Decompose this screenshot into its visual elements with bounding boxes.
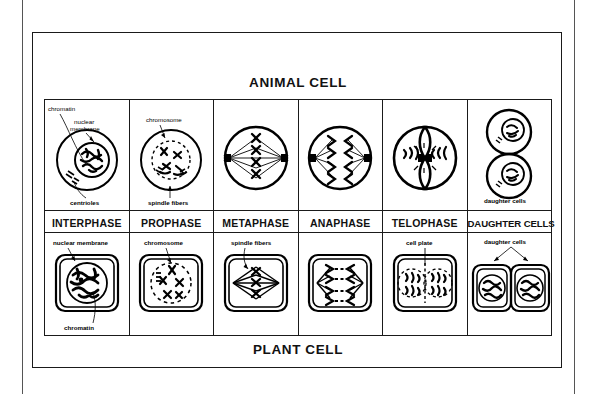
phase-cell-daughter-cells[interactable]: DAUGHTER CELLS <box>467 211 552 233</box>
plant-daughter-cells-diagram: daughter cells <box>468 235 554 333</box>
animal-interphase-diagram: chromatin nuclear membrane centrioles <box>46 102 128 208</box>
animal-daughter-cells: daughter cells <box>467 100 552 211</box>
callout-chromatin: chromatin <box>48 105 76 112</box>
callout-spindle-fibers: spindle fibers <box>231 239 272 246</box>
plant-telophase-cell: cell plate <box>383 233 468 336</box>
animal-telophase-cell <box>383 100 468 211</box>
plant-metaphase-cell: spindle fibers <box>214 233 299 336</box>
animal-prophase-diagram: chromosome spindle fibers <box>130 102 212 208</box>
animal-daughter-cells-diagram: daughter cells <box>468 102 550 208</box>
phase-cell-telophase[interactable]: TELOPHASE <box>383 211 468 233</box>
phase-label-row: INTERPHASE PROPHASE METAPHASE ANAPHASE T… <box>45 211 552 233</box>
callout-centrioles: centrioles <box>70 199 100 206</box>
animal-cell-row: chromatin nuclear membrane centrioles <box>45 100 552 211</box>
callout-nuclear-membrane-l1: nuclear <box>74 118 94 125</box>
plant-anaphase-diagram <box>299 235 381 333</box>
callout-nuclear-membrane: nuclear membrane <box>53 239 109 246</box>
phase-label-metaphase: METAPHASE <box>222 217 289 229</box>
animal-prophase-cell: chromosome spindle fibers <box>129 100 214 211</box>
animal-metaphase-cell <box>214 100 299 211</box>
phase-cell-metaphase[interactable]: METAPHASE <box>214 211 299 233</box>
callout-chromosome: chromosome <box>146 116 182 123</box>
animal-telophase-diagram <box>384 102 466 208</box>
phase-cell-anaphase[interactable]: ANAPHASE <box>298 211 383 233</box>
animal-metaphase-diagram <box>215 102 297 208</box>
plant-anaphase-cell <box>298 233 383 336</box>
animal-anaphase-diagram <box>299 102 381 208</box>
callout-chromatin: chromatin <box>64 324 94 331</box>
callout-daughter-cells: daughter cells <box>484 197 527 204</box>
plant-daughter-cells: daughter cells <box>467 233 552 336</box>
callout-cell-plate: cell plate <box>406 239 433 246</box>
plant-interphase-diagram: nuclear membrane chromatin <box>46 235 128 333</box>
phase-cell-prophase[interactable]: PROPHASE <box>129 211 214 233</box>
phase-label-interphase: INTERPHASE <box>52 217 122 229</box>
callout-daughter-cells: daughter cells <box>484 238 527 245</box>
animal-cell-title: ANIMAL CELL <box>33 75 563 90</box>
plant-telophase-diagram: cell plate <box>384 235 466 333</box>
phase-label-telophase: TELOPHASE <box>392 217 458 229</box>
phase-label-prophase: PROPHASE <box>141 217 202 229</box>
mitosis-figure-frame: ANIMAL CELL chromatin nuclear membrane c… <box>32 32 562 368</box>
phase-label-daughter-cells: DAUGHTER CELLS <box>468 218 555 229</box>
plant-cell-row: nuclear membrane chromatin <box>45 233 552 336</box>
callout-spindle-fibers: spindle fibers <box>148 199 189 206</box>
plant-prophase-diagram: chromosome <box>130 235 212 333</box>
plant-prophase-cell: chromosome <box>129 233 214 336</box>
plant-cell-title: PLANT CELL <box>33 342 563 357</box>
scan-edge-rule-left <box>22 0 23 394</box>
callout-chromosome: chromosome <box>144 239 183 246</box>
plant-interphase-cell: nuclear membrane chromatin <box>45 233 130 336</box>
plant-metaphase-diagram: spindle fibers <box>215 235 297 333</box>
phase-cell-interphase[interactable]: INTERPHASE <box>45 211 130 233</box>
phase-label-anaphase: ANAPHASE <box>310 217 371 229</box>
scan-edge-rule-right <box>574 0 575 394</box>
animal-interphase-cell: chromatin nuclear membrane centrioles <box>45 100 130 211</box>
animal-anaphase-cell <box>298 100 383 211</box>
mitosis-grid: chromatin nuclear membrane centrioles <box>44 99 552 336</box>
